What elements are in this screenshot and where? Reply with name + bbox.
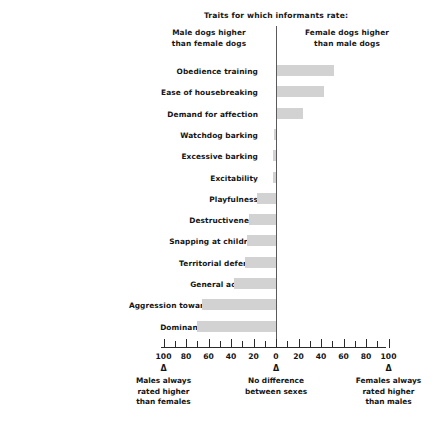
trait-label: Obedience training — [0, 67, 258, 76]
x-axis-tick — [209, 339, 210, 348]
chart-row: Obedience training — [0, 62, 442, 83]
x-axis-minor-tick — [265, 341, 266, 348]
footer-note-line: No difference — [221, 376, 331, 387]
triangle-icon: Δ — [379, 364, 399, 373]
trait-label: Ease of housebreaking — [0, 88, 258, 97]
footer-note-line: Females always — [334, 376, 442, 387]
chart-row: Snapping at children — [0, 232, 442, 253]
x-axis-minor-tick — [310, 341, 311, 348]
trait-label: Snapping at children — [0, 237, 258, 246]
x-axis-tick — [366, 339, 367, 348]
trait-label: Watchdog barking — [0, 131, 258, 140]
trait-bar — [245, 257, 277, 268]
x-axis-tick — [231, 339, 232, 348]
trait-bar — [273, 150, 276, 161]
x-axis-tick — [344, 339, 345, 348]
trait-label: Destructiveness — [0, 216, 258, 225]
trait-label: Demand for affection — [0, 110, 258, 119]
trait-bar — [202, 299, 276, 310]
trait-label: Playfulness — [0, 195, 258, 204]
trait-label: Excitability — [0, 174, 258, 183]
trait-bar — [234, 278, 276, 289]
footer-note: No differencebetween sexes — [221, 376, 331, 397]
x-axis-tick — [321, 339, 322, 348]
trait-bar — [273, 172, 276, 183]
trait-label: Territorial defense — [0, 259, 258, 268]
x-axis-minor-tick — [377, 341, 378, 348]
chart-row: Ease of housebreaking — [0, 83, 442, 104]
trait-bar — [277, 65, 334, 76]
trait-label: General activity — [0, 280, 258, 289]
trait-bar — [257, 193, 276, 204]
chart-row: Dominance over owner — [0, 318, 442, 339]
x-axis-minor-tick — [220, 341, 221, 348]
chart-row: Demand for affection — [0, 105, 442, 126]
trait-bar — [277, 108, 303, 119]
chart-row: Aggression toward other dogs — [0, 296, 442, 317]
x-axis-tick — [389, 339, 390, 348]
footer-note-line: than females — [109, 397, 219, 408]
x-axis-tick — [276, 339, 277, 348]
dog-sex-difference-chart: Traits for which informants rate: Male d… — [0, 0, 442, 433]
x-axis-minor-tick — [197, 341, 198, 348]
chart-row: Playfulness — [0, 190, 442, 211]
chart-row: Excitability — [0, 169, 442, 190]
chart-row: Territorial defense — [0, 254, 442, 275]
chart-row: Excessive barking — [0, 147, 442, 168]
footer-note-line: Males always — [109, 376, 219, 387]
triangle-icon: Δ — [266, 364, 286, 373]
x-axis-minor-tick — [355, 341, 356, 348]
x-axis-tick — [164, 339, 165, 348]
chart-row: Watchdog barking — [0, 126, 442, 147]
trait-bar — [274, 129, 276, 140]
x-axis-tick — [186, 339, 187, 348]
footer-note-line: than males — [334, 397, 442, 408]
x-axis-minor-tick — [287, 341, 288, 348]
x-axis-minor-tick — [242, 341, 243, 348]
x-axis-tick-label: 100 — [374, 352, 404, 361]
trait-bar — [197, 321, 276, 332]
trait-label: Excessive barking — [0, 152, 258, 161]
chart-row: Destructiveness — [0, 211, 442, 232]
x-axis-tick — [254, 339, 255, 348]
footer-note: Males alwaysrated higherthan females — [109, 376, 219, 408]
trait-bar — [247, 235, 276, 246]
footer-note-line: between sexes — [221, 387, 331, 398]
x-axis-minor-tick — [175, 341, 176, 348]
trait-bar — [277, 86, 324, 97]
footer-note-line: rated higher — [109, 387, 219, 398]
chart-row: General activity — [0, 275, 442, 296]
trait-bar — [249, 214, 276, 225]
x-axis-tick — [299, 339, 300, 348]
x-axis-minor-tick — [332, 341, 333, 348]
footer-note: Females alwaysrated higherthan males — [334, 376, 442, 408]
plot-area: Obedience trainingEase of housebreakingD… — [0, 0, 442, 433]
triangle-icon: Δ — [154, 364, 174, 373]
x-axis-line — [161, 347, 386, 348]
footer-note-line: rated higher — [334, 387, 442, 398]
